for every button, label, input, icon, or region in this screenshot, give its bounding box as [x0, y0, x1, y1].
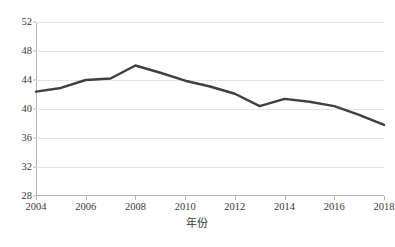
- x-axis-title: 年份: [0, 218, 393, 229]
- gridline: [36, 51, 384, 52]
- x-tick-mark: [235, 196, 236, 200]
- gridline: [36, 22, 384, 23]
- x-tick-label: 2014: [274, 202, 295, 213]
- y-tick-label: 48: [22, 46, 33, 57]
- x-tick-label: 2010: [175, 202, 196, 213]
- y-tick-mark: [33, 167, 36, 168]
- x-tick-label: 2016: [324, 202, 345, 213]
- y-tick-mark: [33, 22, 36, 23]
- y-tick-label: 36: [22, 133, 33, 144]
- y-tick-label: 44: [22, 75, 33, 86]
- x-tick-mark: [36, 196, 37, 200]
- x-tick-label: 2008: [125, 202, 146, 213]
- x-tick-mark: [135, 196, 136, 200]
- x-tick-mark: [86, 196, 87, 200]
- y-tick-label: 40: [22, 104, 33, 115]
- x-tick-label: 2018: [374, 202, 395, 213]
- plot-area: 28323640444852 2004200620082010201220142…: [36, 22, 384, 196]
- y-tick-label: 52: [22, 17, 33, 28]
- x-tick-label: 2012: [224, 202, 245, 213]
- x-tick-mark: [334, 196, 335, 200]
- gridline: [36, 138, 384, 139]
- y-tick-label: 32: [22, 162, 33, 173]
- y-tick-mark: [33, 109, 36, 110]
- gridline: [36, 167, 384, 168]
- y-tick-mark: [33, 80, 36, 81]
- x-tick-mark: [384, 196, 385, 200]
- x-tick-mark: [285, 196, 286, 200]
- x-tick-mark: [185, 196, 186, 200]
- gridline: [36, 109, 384, 110]
- gridline: [36, 80, 384, 81]
- x-tick-label: 2006: [75, 202, 96, 213]
- y-tick-mark: [33, 51, 36, 52]
- y-tick-mark: [33, 138, 36, 139]
- x-tick-label: 2004: [26, 202, 47, 213]
- y-tick-label: 28: [22, 191, 33, 202]
